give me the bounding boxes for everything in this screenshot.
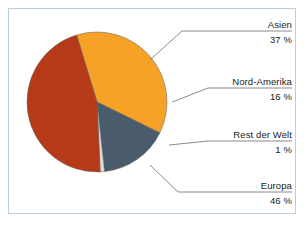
- pie-value-asien: 37 %: [270, 34, 293, 45]
- pie-chart: Asien 37 % Nord-Amerika 16 % Rest der We…: [0, 0, 308, 226]
- pie-label-rest-der-welt: Rest der Welt: [233, 129, 292, 140]
- chart-page: Asien 37 % Nord-Amerika 16 % Rest der We…: [0, 0, 308, 226]
- leader-line-rest-der-welt: [169, 141, 292, 145]
- pie-value-rest-der-welt: 1 %: [275, 144, 292, 155]
- pie-label-europa: Europa: [261, 180, 293, 191]
- pie-label-nord-amerika: Nord-Amerika: [232, 76, 292, 87]
- pie-label-asien: Asien: [268, 19, 292, 30]
- pie-slices: [27, 32, 167, 172]
- pie-value-europa: 46 %: [270, 195, 293, 206]
- pie-value-nord-amerika: 16 %: [270, 91, 293, 102]
